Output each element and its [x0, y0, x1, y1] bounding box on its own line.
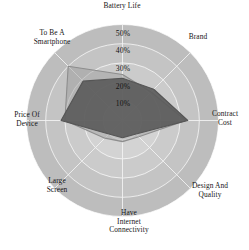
tick-label-30: 30%: [110, 64, 136, 73]
tick-label-10: 10%: [110, 99, 136, 108]
tick-label-40: 40%: [110, 46, 136, 55]
tick-label-20: 20%: [110, 82, 136, 91]
radar-chart: Battery Life Brand Contract Cost Design …: [0, 0, 249, 250]
tick-label-50: 50%: [110, 29, 136, 38]
